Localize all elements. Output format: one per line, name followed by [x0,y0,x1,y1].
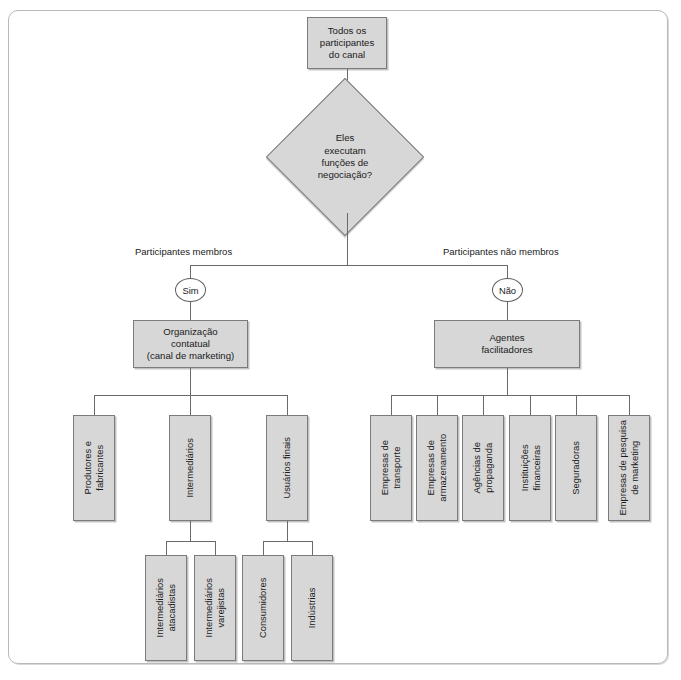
node-transport-companies: Empresas detransporte [370,415,412,521]
node-label: Intermediáriosvarejistas [203,578,227,637]
node-label: Todos osparticipantesdo canal [320,25,374,60]
gate-no-label: Não [499,285,516,296]
node-label: Consumidores [257,578,269,638]
node-label: Produtores efabricantes [82,441,106,495]
edge-end-users-down [287,521,288,541]
gate-yes: Sim [175,278,206,302]
node-end-users: Usuários finais [266,415,308,521]
edge-to-no-gate [507,265,508,278]
node-consumers: Consumidores [242,555,284,661]
node-financial-institutions: Instituiçõesfinanceiras [509,415,551,521]
edge-yes-to-contactual [190,302,191,320]
edge-right-fan-drop-2 [437,395,438,415]
node-label: Seguradoras [570,441,582,495]
edge-right-fan-drop-6 [629,395,630,415]
decision-label: Elesexecutamfunções denegociação? [289,101,401,213]
edge-right-fan-drop-5 [576,395,577,415]
edge-left-fan-drop-3 [287,395,288,415]
edge-right-fan-drop-4 [530,395,531,415]
node-label: Agências depropaganda [471,442,495,494]
decision-node-group: Elesexecutamfunções denegociação? [289,101,401,213]
edge-end-users-drop-1 [263,541,264,555]
edge-intermediaries-drop-2 [215,541,216,555]
node-advertising-agencies: Agências depropaganda [462,415,504,521]
edge-label-members: Participantes membros [135,246,232,257]
node-label: Intermediários [184,438,196,497]
node-label: Empresas dearmazenamento [425,434,449,502]
edge-end-users-bar [263,541,312,542]
edge-contactual-down [190,368,191,395]
node-label: Intermediáriosatacadistas [154,578,178,637]
node-label: Instituiçõesfinanceiras [518,445,542,492]
diagram-canvas: Todos osparticipantesdo canal Elesexecut… [0,0,681,680]
node-label: Agentesfacilitadores [481,332,532,355]
edge-left-fan-drop-2 [190,395,191,415]
node-insurance-companies: Seguradoras [555,415,597,521]
node-contactual-organization: Organizaçãocontatual(canal de marketing) [133,320,248,368]
gate-no: Não [492,278,523,302]
node-label: Usuários finais [281,437,293,498]
edge-right-fan-bar [391,395,629,396]
edge-end-users-drop-2 [312,541,313,555]
edge-intermediaries-bar [166,541,215,542]
node-warehousing-companies: Empresas dearmazenamento [416,415,458,521]
edge-intermediaries-down [190,521,191,541]
node-wholesale-intermediaries: Intermediáriosatacadistas [145,555,187,661]
node-retail-intermediaries: Intermediáriosvarejistas [194,555,236,661]
edge-decision-down [347,213,348,265]
edge-decision-split-bar [190,265,507,266]
node-label: Indústrias [306,588,318,629]
edge-right-fan-drop-1 [391,395,392,415]
node-intermediaries: Intermediários [169,415,211,521]
edge-to-yes-gate [190,265,191,278]
node-industries: Indústrias [291,555,333,661]
edge-agents-down [507,368,508,395]
node-marketing-research-companies: Empresas de pesquisade marketing [608,415,650,521]
edge-intermediaries-drop-1 [166,541,167,555]
node-all-channel-participants: Todos osparticipantesdo canal [307,17,387,69]
edge-left-fan-drop-1 [94,395,95,415]
node-label: Organizaçãocontatual(canal de marketing) [147,326,234,361]
node-producers-manufacturers: Produtores efabricantes [73,415,115,521]
edge-no-to-agents [507,302,508,320]
gate-yes-label: Sim [182,285,198,296]
edge-right-fan-drop-3 [483,395,484,415]
edge-label-non-members: Participantes não membros [443,246,559,257]
node-facilitating-agents: Agentesfacilitadores [434,320,580,368]
node-label: Empresas detransporte [379,440,403,495]
node-label: Empresas de pesquisade marketing [617,420,641,515]
